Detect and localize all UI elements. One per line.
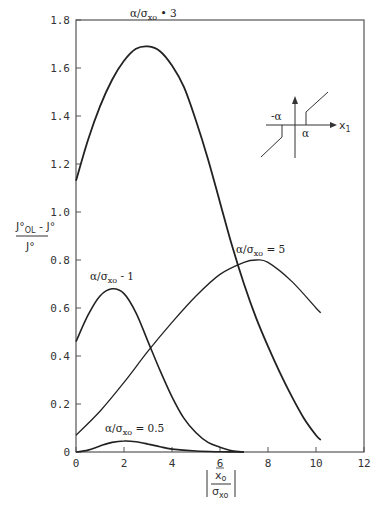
line-chart: 00.20.40.60.81.01.21.41.61.8 024681012 α…	[0, 0, 381, 507]
x-tick-label: 4	[169, 457, 176, 470]
svg-text:-α: -α	[271, 110, 282, 122]
curve-series-2	[76, 260, 321, 435]
y-tick-label: 1.0	[50, 206, 70, 219]
svg-text:α: α	[302, 127, 309, 139]
y-axis-label: J°OL - J° J°	[15, 220, 55, 253]
y-tick-label: 1.4	[50, 110, 70, 123]
y-tick-label: 1.2	[50, 158, 70, 171]
inset-nonlinearity-diagram: -α α x1	[261, 92, 351, 158]
y-tick-label: 1.6	[50, 62, 70, 75]
plot-frame	[76, 20, 364, 452]
x-tick-label: 12	[357, 457, 370, 470]
x-axis: 024681012	[73, 447, 371, 470]
svg-text:J°: J°	[25, 240, 35, 253]
x-axis-label: xo σxo	[207, 468, 235, 500]
y-tick-label: 0.4	[50, 350, 70, 363]
curve-label-1: α/σxo - 1	[90, 270, 134, 285]
y-tick-label: 0.6	[50, 302, 70, 315]
y-tick-label: 1.8	[50, 14, 70, 27]
x-tick-label: 8	[265, 457, 272, 470]
y-tick-label: 0.2	[50, 398, 70, 411]
curve-label-5: α/σxo = 5	[236, 243, 285, 258]
y-tick-label: 0.8	[50, 254, 70, 267]
svg-text:J°OL - J°: J°OL - J°	[15, 220, 55, 235]
svg-text:x1: x1	[339, 119, 351, 134]
x-tick-label: 0	[73, 457, 80, 470]
curve-label-05: α/σxo = 0.5	[105, 422, 164, 437]
x-tick-label: 10	[309, 457, 322, 470]
x-tick-label: 2	[121, 457, 128, 470]
svg-text:xo: xo	[215, 469, 227, 483]
y-tick-label: 0	[63, 446, 70, 459]
svg-text:σxo: σxo	[212, 485, 228, 500]
